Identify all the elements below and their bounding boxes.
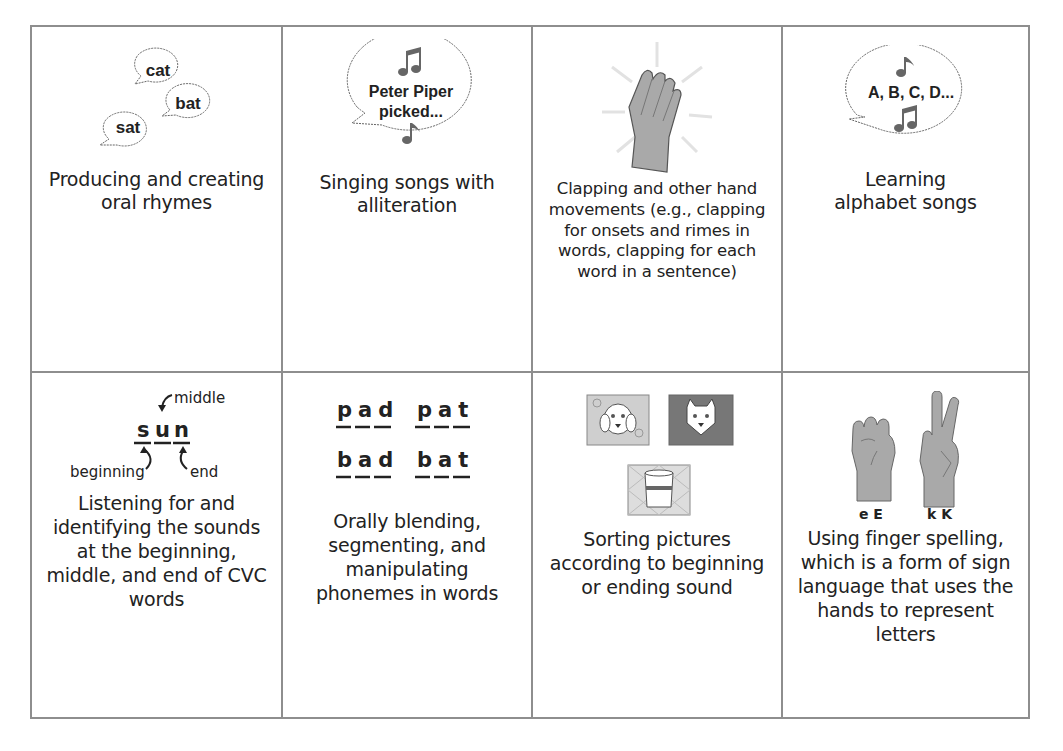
letter-u: u xyxy=(155,418,170,442)
cell-cvc-sounds: middle s u n beginning end Listening fo xyxy=(32,373,283,717)
cup-picture-card xyxy=(628,465,690,515)
dog-picture-card xyxy=(587,395,649,445)
finger-spelling-hands-icon: e E k K xyxy=(831,391,981,526)
rhyme-speech-bubbles-icon: cat bat sat xyxy=(92,35,222,150)
label-end: end xyxy=(190,463,218,481)
cvc-word-positions-icon: middle s u n beginning end xyxy=(62,381,252,481)
picture-sort-cards-icon xyxy=(577,393,737,523)
activity-description: Sorting pictures according to beginning … xyxy=(533,527,781,599)
activity-description: Singing songs with alliteration xyxy=(283,171,531,217)
rhyme-word-cat: cat xyxy=(145,61,170,80)
phonological-activities-grid: cat bat sat Producing and creating oral … xyxy=(30,25,1030,719)
rhyme-word-sat: sat xyxy=(115,118,140,137)
label-middle: middle xyxy=(174,389,225,407)
cell-finger-spelling: e E k K Using finger spelling, which is … xyxy=(783,373,1028,717)
hand-sign-k-icon xyxy=(920,391,959,507)
cell-alphabet-songs: A, B, C, D... Learning alphabet songs xyxy=(783,27,1028,373)
word-bat: bat xyxy=(417,448,474,472)
alliteration-song-bubble-icon: Peter Piper picked... xyxy=(337,39,477,159)
activity-description: Listening for and identifying the sounds… xyxy=(32,491,281,611)
cat-picture-card xyxy=(669,395,733,445)
activity-description: Using finger spelling, which is a form o… xyxy=(783,526,1028,646)
hand-label-k: k K xyxy=(927,506,953,522)
cell-clapping-movements: Clapping and other hand movements (e.g.,… xyxy=(533,27,783,373)
alphabet-song-bubble-icon: A, B, C, D... xyxy=(841,45,971,150)
word-pat: pat xyxy=(417,398,474,422)
activity-description: Orally blending, segmenting, and manipul… xyxy=(283,509,531,605)
cell-oral-rhymes: cat bat sat Producing and creating oral … xyxy=(32,27,283,373)
bubble-text-line2: picked... xyxy=(379,103,443,120)
bubble-text-line1: Peter Piper xyxy=(369,83,453,100)
rhyme-word-bat: bat xyxy=(175,94,201,113)
word-bad: bad xyxy=(337,448,399,472)
cell-alliteration-songs: Peter Piper picked... Singing songs with… xyxy=(283,27,533,373)
letter-n: n xyxy=(174,418,189,442)
bubble-text-abc: A, B, C, D... xyxy=(867,84,953,101)
letter-s: s xyxy=(137,418,150,442)
label-beginning: beginning xyxy=(70,463,145,481)
cell-picture-sorting: Sorting pictures according to beginning … xyxy=(533,373,783,717)
hand-sign-e-icon xyxy=(852,417,895,501)
hand-label-e: e E xyxy=(859,506,883,522)
cell-phoneme-manipulation: pad pat bad bat Orally blending, segment… xyxy=(283,373,533,717)
clapping-hand-icon xyxy=(597,37,717,177)
phoneme-words-icon: pad pat bad bat xyxy=(307,387,507,487)
activity-description: Producing and creating oral rhymes xyxy=(32,168,281,214)
activity-description: Clapping and other hand movements (e.g.,… xyxy=(533,179,781,283)
activity-description: Learning alphabet songs xyxy=(783,168,1028,214)
word-pad: pad xyxy=(337,398,399,422)
